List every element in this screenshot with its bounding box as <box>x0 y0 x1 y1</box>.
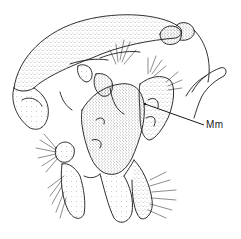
insect-head-illustration <box>0 0 241 239</box>
labrum-base <box>77 65 92 82</box>
labium-right <box>132 160 152 219</box>
left-appendage <box>55 142 74 162</box>
gena-lobe <box>13 88 49 129</box>
labium-center <box>100 174 133 222</box>
label-mm: Mm <box>206 119 224 130</box>
labium-left <box>61 164 85 219</box>
